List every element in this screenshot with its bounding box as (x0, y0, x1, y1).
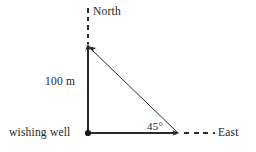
wishing-well-label: wishing well (9, 126, 71, 138)
geometry-diagram: North East 100 m wishing well 45° (0, 0, 256, 152)
origin-vertex-dot (85, 130, 91, 136)
east-label: East (218, 126, 239, 138)
distance-label: 100 m (45, 75, 75, 87)
hypotenuse-line (90, 48, 177, 132)
angle-label: 45° (147, 120, 163, 132)
north-label: North (93, 5, 121, 17)
